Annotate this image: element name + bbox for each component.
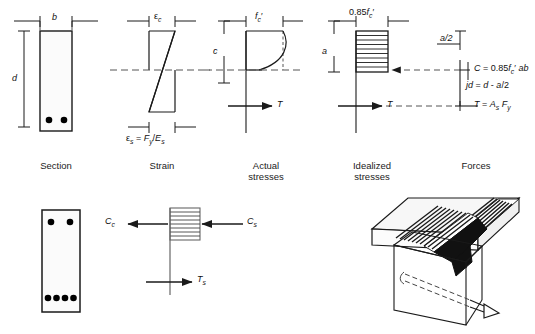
caption-forces: Forces bbox=[441, 160, 511, 171]
caption-actual-line2: stresses bbox=[248, 171, 283, 182]
caption-actual-line1: Actual bbox=[253, 160, 279, 171]
compression-equation: C = 0.85fc′ ab bbox=[474, 63, 528, 75]
idealized-tension-label: T bbox=[387, 99, 393, 109]
steel-tension-label: Ts bbox=[197, 274, 206, 286]
forces-panel bbox=[386, 31, 478, 111]
beam-3d-panel bbox=[372, 198, 519, 325]
neutral-axis-depth-label: c bbox=[213, 46, 218, 56]
bottom-forces-panel bbox=[128, 208, 243, 295]
top-strain-label: εc bbox=[154, 11, 161, 23]
concrete-strength-label: fc′ bbox=[255, 11, 263, 23]
section-panel bbox=[14, 16, 98, 131]
section-depth-label: d bbox=[12, 73, 17, 83]
actual-stresses-panel bbox=[205, 16, 303, 133]
strain-panel bbox=[110, 16, 210, 133]
caption-section: Section bbox=[16, 160, 96, 171]
stress-block-depth-label: a bbox=[322, 46, 327, 56]
section-width-label: b bbox=[52, 12, 57, 22]
concrete-compression-label: Cc bbox=[105, 216, 115, 228]
caption-actual-stresses: Actual stresses bbox=[226, 160, 306, 182]
tension-equation: T = As Fy bbox=[474, 99, 511, 111]
idealized-stresses-panel bbox=[328, 16, 409, 133]
moment-arm-equation: jd = d - a/2 bbox=[466, 80, 509, 90]
caption-idealized-line2: stresses bbox=[354, 171, 389, 182]
caption-strain: Strain bbox=[122, 160, 202, 171]
figure-canvas: b d εc εs = Fy/Es c fc′ T a 0.85fc′ T a/… bbox=[0, 0, 535, 334]
lever-arm-half-label: a/2 bbox=[440, 33, 453, 43]
caption-idealized-stresses: Idealized stresses bbox=[332, 160, 412, 182]
caption-idealized-line1: Idealized bbox=[353, 160, 391, 171]
idealized-stress-label: 0.85fc′ bbox=[349, 7, 374, 19]
steel-compression-label: Cs bbox=[247, 216, 257, 228]
bottom-section-panel bbox=[42, 210, 80, 312]
bottom-strain-equation: εs = Fy/Es bbox=[126, 133, 165, 145]
actual-tension-label: T bbox=[277, 99, 283, 109]
